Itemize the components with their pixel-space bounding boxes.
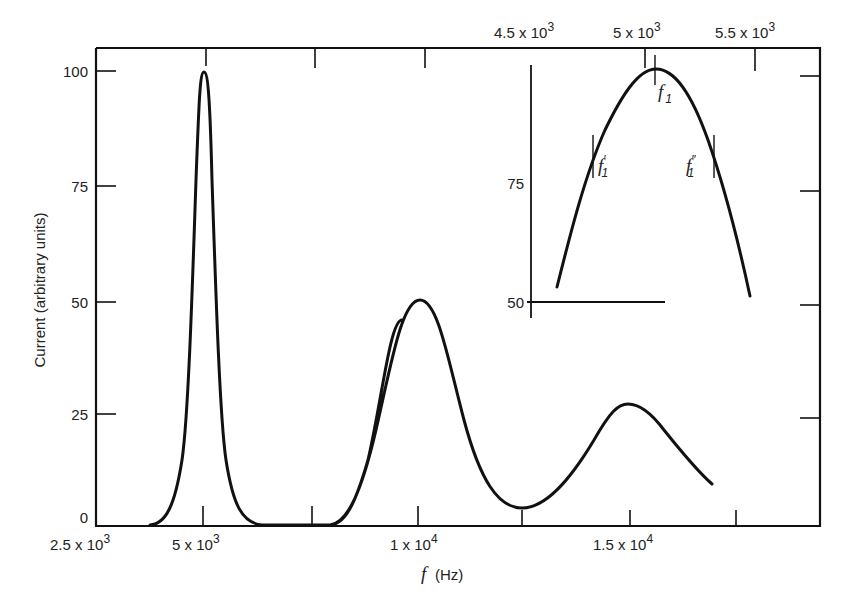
inset-y-tick-50: 50 xyxy=(507,294,524,311)
y-tick-100: 100 xyxy=(63,63,88,80)
annotation-f1-prime: f′1 xyxy=(598,153,608,180)
main-x-ticks xyxy=(203,506,736,526)
x-tick-15000: 1.5 x 104 xyxy=(593,532,653,553)
y-axis-title: Current (arbitrary units) xyxy=(31,212,48,367)
main-response-curve xyxy=(150,72,712,525)
inset-plot: 75 50 4.5 x 103 5 x 103 5.5 x 103 f1 f′1… xyxy=(494,20,775,318)
right-y-ticks xyxy=(800,76,820,418)
x-tick-10000: 1 x 104 xyxy=(390,532,438,553)
inset-y-tick-75: 75 xyxy=(507,175,524,192)
x-tick-2500: 2.5 x 103 xyxy=(50,532,110,553)
top-x-ticks xyxy=(206,48,425,68)
inset-x-label-4500: 4.5 x 103 xyxy=(494,20,554,41)
main-plot-frame xyxy=(95,47,821,527)
annotation-f1: f1 xyxy=(658,81,672,106)
inset-x-label-5000: 5 x 103 xyxy=(613,20,661,41)
svg-text:f: f xyxy=(421,563,429,584)
annotation-f1-double-prime: f″1 xyxy=(686,153,696,180)
main-y-tick-labels: 100 75 50 25 0 xyxy=(63,63,88,526)
svg-text:(Hz): (Hz) xyxy=(435,566,463,583)
y-tick-75: 75 xyxy=(71,178,88,195)
inset-x-label-5500: 5.5 x 103 xyxy=(715,20,775,41)
y-tick-25: 25 xyxy=(71,406,88,423)
main-y-ticks xyxy=(96,71,116,414)
inset-peak-curve xyxy=(557,69,750,296)
x-tick-5000: 5 x 103 xyxy=(172,532,220,553)
main-x-tick-labels: 2.5 x 103 5 x 103 1 x 104 1.5 x 104 xyxy=(50,532,653,553)
resonance-chart: 100 75 50 25 0 2.5 x 103 5 x 103 1 x 104… xyxy=(0,0,844,604)
y-tick-0: 0 xyxy=(80,509,88,526)
y-tick-50: 50 xyxy=(71,294,88,311)
x-axis-title: f (Hz) xyxy=(421,563,463,584)
